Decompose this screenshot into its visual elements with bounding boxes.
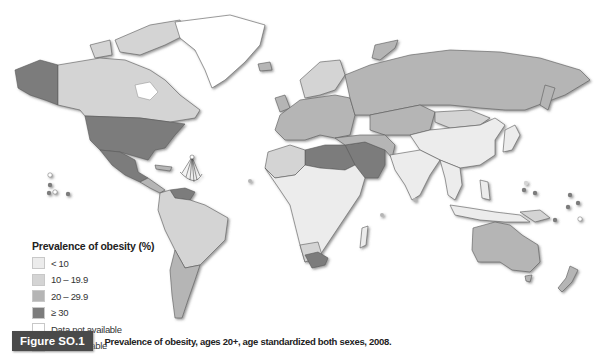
region-arctic-islands [115,20,185,55]
legend-label: < 10 [51,258,69,269]
region-philippines [480,180,490,200]
legend-label: 20 – 29.9 [51,291,88,302]
legend-swatch [32,274,45,286]
region-central-america [140,178,165,193]
region-australia [472,222,540,272]
caption-text: Prevalence of obesity, ages 20+, age sta… [105,336,392,347]
region-indonesia [450,205,530,222]
legend-item-10-19: 10 – 19.9 [32,272,202,289]
region-new-zealand [558,266,578,292]
legend-swatch [32,290,45,302]
region-novaya-zemlya [372,40,398,60]
legend-swatch [32,307,45,319]
region-russia [345,50,590,115]
region-india [390,150,440,200]
region-arctic-islands-2 [90,40,112,58]
region-south-africa [305,252,328,268]
region-caribbean [155,165,172,171]
region-greenland [175,15,265,88]
legend-item-gte30: ≥ 30 [32,305,202,322]
region-scandinavia [300,60,345,98]
figure-caption: Figure SO.1 Prevalence of obesity, ages … [12,331,391,351]
legend-label: ≥ 30 [51,307,68,318]
region-canada [58,58,200,122]
legend-label: 10 – 19.9 [51,274,88,285]
region-alaska [15,60,58,105]
region-iceland [258,62,272,71]
figure-label: Figure SO.1 [12,331,93,351]
region-madagascar [360,226,368,248]
region-japan [503,125,520,152]
legend-item-lt10: < 10 [32,255,202,272]
legend-item-20-29: 20 – 29.9 [32,288,202,305]
legend-swatch [32,257,45,269]
region-usa [85,116,185,160]
legend-title: Prevalence of obesity (%) [32,240,202,252]
region-tasmania [525,275,532,282]
caribbean-callout [180,157,202,182]
